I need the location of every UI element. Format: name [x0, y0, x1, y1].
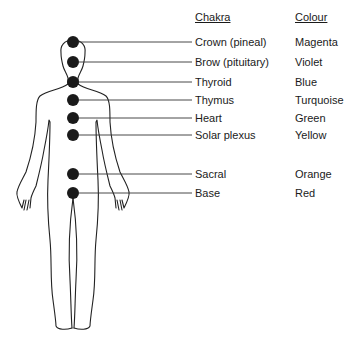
chakra-label: Thyroid [195, 76, 232, 88]
chakra-label: Heart [195, 112, 222, 124]
leader-lines [79, 42, 192, 193]
chakra-column-header: Chakra [195, 11, 230, 23]
colour-label: Green [295, 112, 326, 124]
colour-label: Red [295, 187, 315, 199]
chakra-label: Thymus [195, 94, 234, 106]
chakra-label: Sacral [195, 168, 226, 180]
colour-label: Blue [295, 76, 317, 88]
colour-label: Orange [295, 168, 332, 180]
chakra-markers [67, 36, 79, 199]
colour-column-header: Colour [295, 11, 327, 23]
colour-label: Yellow [295, 129, 326, 141]
chakra-label: Base [195, 187, 220, 199]
chakra-label: Brow (pituitary) [195, 56, 269, 68]
colour-label: Magenta [295, 36, 338, 48]
chakra-label: Solar plexus [195, 129, 256, 141]
colour-label: Violet [295, 56, 322, 68]
chakra-label: Crown (pineal) [195, 36, 267, 48]
colour-label: Turquoise [295, 94, 344, 106]
